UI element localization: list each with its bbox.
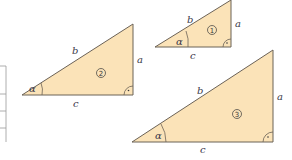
side-c-label: c bbox=[73, 98, 79, 109]
triangle-number: 3 bbox=[235, 111, 239, 119]
side-c-label: c bbox=[190, 50, 196, 61]
angle-alpha-label: α bbox=[155, 130, 162, 141]
side-a-label: a bbox=[235, 18, 241, 29]
triangle-number: 2 bbox=[99, 70, 103, 78]
right-angle-dot bbox=[226, 42, 228, 44]
side-b-label: b bbox=[197, 85, 203, 96]
side-b-label: b bbox=[187, 14, 193, 25]
right-angle-dot bbox=[267, 136, 269, 138]
side-a-label: a bbox=[277, 91, 283, 102]
triangles-diagram: α b a c 2 α b a c 1 α b a c 3 bbox=[0, 0, 292, 160]
side-c-label: c bbox=[200, 144, 206, 155]
triangle-2: α b a c 2 bbox=[22, 24, 143, 109]
side-a-label: a bbox=[137, 54, 143, 65]
triangle-3-shape bbox=[132, 50, 273, 142]
partial-table bbox=[0, 66, 6, 142]
angle-alpha-label: α bbox=[29, 83, 36, 94]
triangle-3: α b a c 3 bbox=[132, 50, 283, 155]
side-b-label: b bbox=[72, 45, 78, 56]
right-angle-dot bbox=[128, 90, 130, 92]
angle-alpha-label: α bbox=[176, 36, 183, 47]
triangle-number: 1 bbox=[210, 27, 214, 35]
triangle-2-shape bbox=[22, 24, 133, 95]
triangle-1: α b a c 1 bbox=[155, 0, 241, 61]
